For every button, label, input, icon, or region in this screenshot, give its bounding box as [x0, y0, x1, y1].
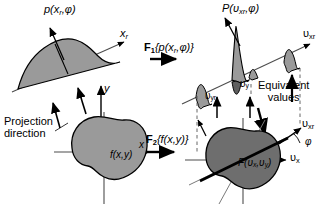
spectrum-profile-group [182, 18, 310, 109]
spectrum-vxr-arrow [279, 128, 301, 144]
spectrum-pointer-arrow [225, 18, 240, 46]
object-blob-shape [72, 117, 147, 180]
spectrum-vyr-arrow [198, 120, 206, 136]
projection-direction-leader [55, 123, 68, 131]
projection-hump-shape [18, 39, 120, 89]
spectrum-lobe-far-left [196, 85, 212, 109]
projection-direction-arrow-1 [78, 88, 86, 114]
transform-arrows [148, 59, 176, 152]
spectrum-2d-blob-shape [206, 128, 280, 189]
phi-angle-arc [294, 134, 300, 143]
object-function-group [54, 112, 150, 204]
spectrum-lobe-far-right [284, 50, 300, 73]
spectrum-2d-group [185, 118, 301, 204]
projection-direction-arrow-2 [53, 103, 60, 128]
fourier-slice-theorem-diagram [0, 0, 332, 208]
spectrum-side-lobe-left-neg [232, 81, 241, 94]
spectrum-side-lobe-left-pos [249, 69, 258, 80]
figure-root: p(xr,φ) xr y Projection direction f(x,y)… [0, 0, 332, 208]
projection-profile-group [12, 28, 124, 92]
